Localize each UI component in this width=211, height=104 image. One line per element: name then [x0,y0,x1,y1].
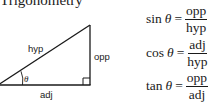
sine-numerator: opp [185,4,207,20]
sine-function-name: sin [146,11,162,27]
cosine-equals: = [177,45,185,61]
sine-formula: sin θ = opp hyp [146,4,207,34]
sine-theta: θ [165,11,172,27]
cosine-formula: cos θ = adj hyp [146,38,208,68]
hypotenuse-side [0,25,90,85]
tangent-equals: = [175,78,183,94]
cosine-theta: θ [167,45,174,61]
tangent-numerator: opp [186,71,208,87]
cosine-denominator: hyp [187,54,207,69]
tangent-formula: tan θ = opp adj [146,71,208,101]
cosine-numerator: adj [188,38,207,54]
cosine-fraction: adj hyp [187,38,207,68]
sine-denominator: hyp [186,20,206,35]
hyp-label: hyp [28,43,43,54]
sine-fraction: opp hyp [185,4,207,34]
theta-label: θ [24,74,29,84]
cosine-function-name: cos [146,45,164,61]
sine-equals: = [174,11,182,27]
tangent-function-name: tan [146,78,163,94]
opp-label: opp [94,51,110,62]
tangent-denominator: adj [189,87,206,102]
tangent-fraction: opp adj [186,71,208,101]
adj-label: adj [40,89,53,100]
tangent-theta: θ [166,78,173,94]
angle-arc [21,71,23,85]
right-triangle-diagram: hyp opp adj θ [0,0,120,104]
right-angle-marker [83,78,90,85]
